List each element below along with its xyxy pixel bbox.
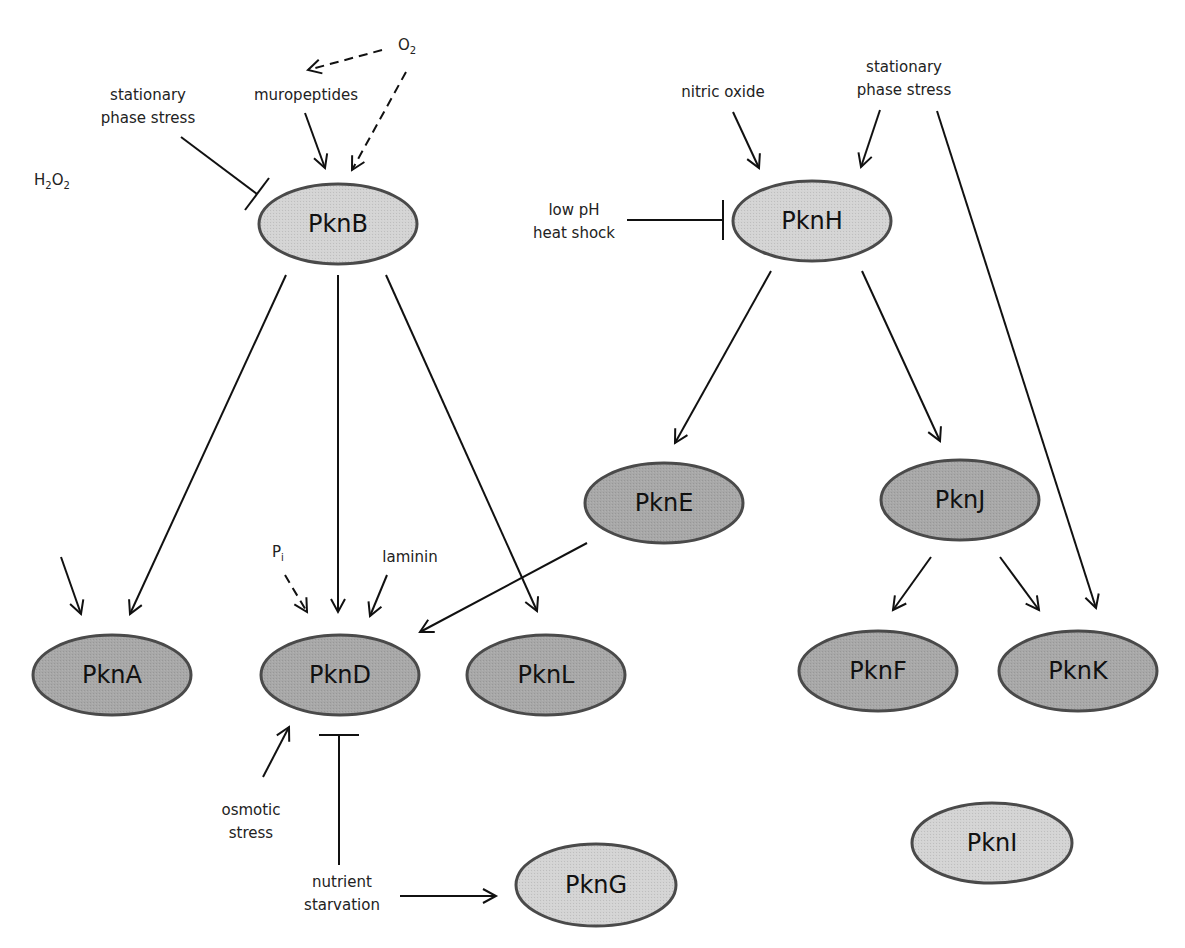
node-label: PknJ [935,486,986,514]
node-label: PknL [518,661,576,689]
node-label: PknK [1048,657,1109,685]
node-pkng: PknG [516,844,676,926]
node-label: PknH [781,207,843,235]
stimulus-osmotic-stress: osmoticstress [221,801,280,842]
edge-laminin-to-pknd [369,575,387,616]
kinase-network-diagram: PknBPknHPknEPknJPknAPknDPknLPknFPknKPknG… [0,0,1185,948]
edge-stationary-right-to-pknh [858,110,880,167]
stimulus-nutrient-starvation: nutrientstarvation [304,873,380,914]
edge-pknb-to-pknd [331,275,345,612]
node-pknh: PknH [733,181,891,261]
stimulus-o2: O2 [398,36,416,56]
edge-low-ph-heat-to-pknh [627,200,723,240]
stimulus-label: laminin [382,548,437,566]
node-label: PknB [308,210,368,238]
inhibition-bar-icon [245,178,269,210]
stimulus-label: stationary [866,58,942,76]
stimulus-label: O2 [398,36,416,56]
node-pknd: PknD [261,635,419,715]
edge-pi-to-pknd [285,575,307,612]
stimulus-label: muropeptides [254,86,358,104]
stimulus-stationary-right: stationaryphase stress [857,58,952,99]
stimulus-low-ph-heat: low pHheat shock [533,201,615,242]
node-label: PknG [565,871,627,899]
edge-h2o2-to-pkna [61,557,83,614]
node-pkne: PknE [585,463,743,543]
stimulus-label: stationary [110,86,186,104]
stimulus-muropeptides: muropeptides [254,86,358,104]
edge-o2-to-muropeptides [308,50,382,73]
stimulus-label: nutrient [312,873,372,891]
node-pknk: PknK [999,631,1157,711]
stimulus-label: H2O2 [34,171,70,191]
node-label: PknI [967,829,1018,857]
edge-pknb-to-pkna [129,275,286,614]
edge-pkne-to-pknd [420,543,587,632]
edge-nutrient-starvation-to-pkng [400,889,496,903]
node-pknl: PknL [467,635,625,715]
node-pkna: PknA [33,635,191,715]
node-label: PknD [309,661,371,689]
edge-stationary-left-to-pknb [181,137,269,210]
stimulus-labels-layer: O2muropeptidesstationaryphase stressnitr… [34,36,951,914]
stimulus-laminin: laminin [382,548,437,566]
edge-nutrient-starvation-to-pknd [319,735,359,865]
stimulus-pi: Pi [272,543,284,563]
stimulus-label: phase stress [857,81,952,99]
edge-pknh-to-pkne [675,271,771,443]
node-label: PknA [82,661,143,689]
stimulus-label: starvation [304,896,380,914]
edge-osmotic-stress-to-pknd [263,727,289,777]
stimulus-label: osmotic [221,801,280,819]
node-pknf: PknF [799,631,957,711]
stimulus-label: nitric oxide [681,83,764,101]
stimulus-label: Pi [272,543,284,563]
stimulus-h2o2: H2O2 [34,171,70,191]
node-pknj: PknJ [881,460,1039,540]
node-pknb: PknB [259,184,417,264]
node-label: PknE [635,489,694,517]
stimulus-label: phase stress [101,109,196,127]
arrowhead-icon [294,597,307,612]
edge-muropeptides-to-pknb [305,113,327,168]
edge-pknj-to-pknk [1000,557,1039,610]
edge-pknj-to-pknf [893,557,931,610]
stimulus-nitric-oxide: nitric oxide [681,83,764,101]
nodes-layer: PknBPknHPknEPknJPknAPknDPknLPknFPknKPknG… [33,181,1157,926]
stimulus-label: low pH [548,201,599,219]
stimulus-label: heat shock [533,224,615,242]
edge-o2-to-pknb [352,72,406,170]
edge-pknh-to-pknj [862,271,941,441]
edge-nitric-oxide-to-pknh [733,112,760,168]
node-pkni: PknI [912,803,1072,883]
stimulus-label: stress [229,824,274,842]
node-label: PknF [849,657,906,685]
stimulus-stationary-left: stationaryphase stress [101,86,196,127]
